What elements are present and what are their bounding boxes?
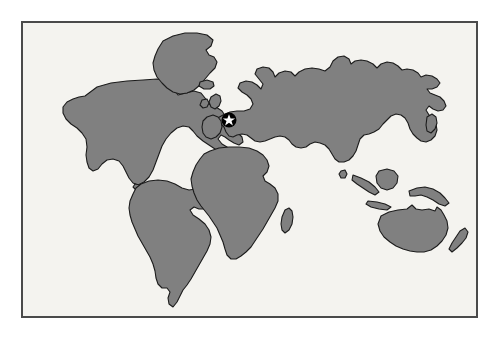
landmass-ireland — [200, 99, 209, 108]
world-map-figure — [0, 0, 498, 339]
world-map-canvas — [23, 23, 476, 316]
landmass-iceland — [199, 80, 214, 89]
map-frame-border — [21, 21, 478, 318]
location-marker[interactable] — [222, 113, 237, 128]
